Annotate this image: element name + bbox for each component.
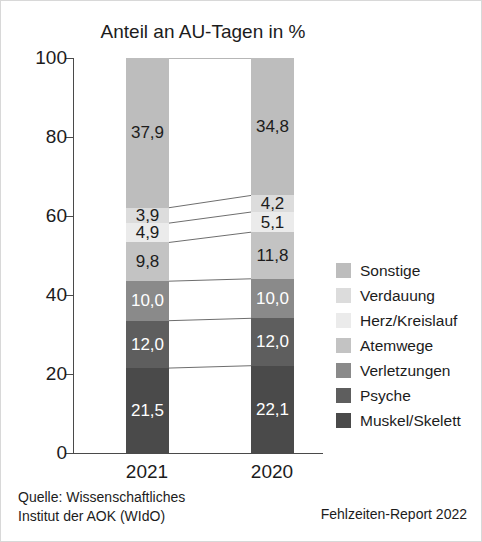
bar-segment: 21,5 [126, 368, 169, 453]
segment-value-label: 22,1 [256, 401, 289, 418]
segment-value-label: 10,0 [131, 292, 164, 309]
legend-swatch-icon [336, 363, 351, 378]
y-tick-label: 0 [56, 442, 67, 464]
y-tick-label: 40 [46, 284, 67, 306]
bar-segment: 12,0 [251, 318, 294, 365]
y-axis-line [73, 58, 74, 453]
chart-title: Anteil an AU-Tagen in % [73, 21, 333, 43]
bar-segment: 9,8 [126, 242, 169, 281]
segment-value-label: 21,5 [131, 402, 164, 419]
report-note: Fehlzeiten-Report 2022 [321, 506, 467, 522]
legend: SonstigeVerdauungHerz/KreislaufAtemwegeV… [336, 258, 461, 433]
legend-swatch-icon [336, 263, 351, 278]
segment-value-label: 12,0 [131, 336, 164, 353]
legend-item[interactable]: Atemwege [336, 333, 461, 358]
segment-value-label: 37,9 [131, 124, 164, 141]
chart-figure: Anteil an AU-Tagen in % 020406080100 21,… [0, 0, 482, 542]
bar-2020: 22,112,010,011,85,14,234,8 [251, 58, 294, 453]
y-tick-label: 80 [46, 126, 67, 148]
legend-item[interactable]: Verdauung [336, 283, 461, 308]
y-tick-label: 20 [46, 363, 67, 385]
legend-swatch-icon [336, 388, 351, 403]
segment-connector-line [169, 279, 251, 281]
bar-segment: 11,8 [251, 232, 294, 279]
segment-value-label: 34,8 [256, 118, 289, 135]
segment-value-label: 9,8 [136, 253, 160, 270]
legend-item[interactable]: Verletzungen [336, 358, 461, 383]
bar-segment: 4,2 [251, 195, 294, 212]
segment-connector-line [169, 318, 251, 320]
legend-label: Verdauung [360, 287, 435, 305]
segment-connector-lines [169, 58, 251, 453]
legend-swatch-icon [336, 313, 351, 328]
segment-value-label: 4,9 [136, 224, 160, 241]
legend-label: Muskel/Skelett [360, 412, 461, 430]
segment-connector-line [169, 232, 251, 242]
bar-segment: 10,0 [251, 279, 294, 319]
plot-area: 020406080100 21,512,010,09,84,93,937,9 2… [73, 58, 323, 453]
legend-item[interactable]: Muskel/Skelett [336, 408, 461, 433]
segment-connector-line [169, 212, 251, 223]
source-note: Quelle: Wissenschaftliches Institut der … [18, 488, 185, 526]
legend-swatch-icon [336, 338, 351, 353]
bar-segment: 10,0 [126, 281, 169, 321]
segment-value-label: 4,2 [261, 195, 285, 212]
legend-item[interactable]: Herz/Kreislauf [336, 308, 461, 333]
legend-label: Atemwege [360, 337, 433, 355]
x-axis-line [73, 453, 323, 454]
bar-segment: 22,1 [251, 366, 294, 453]
bar-segment: 4,9 [126, 223, 169, 242]
segment-connector-line [169, 366, 251, 368]
bar-segment: 3,9 [126, 208, 169, 223]
segment-value-label: 3,9 [136, 207, 160, 224]
source-line-1: Quelle: Wissenschaftliches [18, 488, 185, 507]
legend-swatch-icon [336, 288, 351, 303]
x-tick-label-2021: 2021 [102, 461, 192, 483]
segment-value-label: 5,1 [261, 214, 285, 231]
legend-label: Sonstige [360, 262, 420, 280]
legend-label: Psyche [360, 387, 411, 405]
segment-value-label: 11,8 [257, 247, 289, 264]
bar-segment: 34,8 [251, 58, 294, 195]
bar-segment: 5,1 [251, 212, 294, 232]
legend-item[interactable]: Psyche [336, 383, 461, 408]
legend-label: Verletzungen [360, 362, 451, 380]
segment-connector-line [169, 195, 251, 207]
segment-value-label: 10,0 [256, 290, 289, 307]
source-line-2: Institut der AOK (WIdO) [18, 507, 185, 526]
legend-label: Herz/Kreislauf [360, 312, 457, 330]
legend-swatch-icon [336, 413, 351, 428]
y-tick-label: 60 [46, 205, 67, 227]
legend-item[interactable]: Sonstige [336, 258, 461, 283]
segment-value-label: 12,0 [256, 333, 289, 350]
y-tick-label: 100 [35, 47, 67, 69]
bar-segment: 12,0 [126, 321, 169, 368]
x-tick-label-2020: 2020 [227, 461, 317, 483]
bar-segment: 37,9 [126, 58, 169, 208]
bar-2021: 21,512,010,09,84,93,937,9 [126, 58, 169, 453]
